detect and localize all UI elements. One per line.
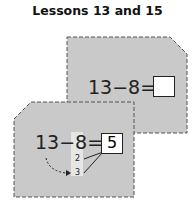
equation: 13−8= (35, 131, 103, 153)
minuend: 13 (35, 131, 59, 153)
flash-card-bottom: 13−8= 5 2 3 (13, 101, 135, 198)
subtrahend: 8 (75, 131, 87, 153)
page-title: Lessons 13 and 15 (0, 3, 195, 18)
minus-sign: − (59, 131, 75, 153)
answer-box (153, 76, 175, 97)
decomposition-part-2: 3 (75, 168, 80, 177)
equation: 13−8= (88, 76, 156, 98)
answer-box: 5 (101, 133, 123, 154)
minus-sign: − (112, 76, 128, 98)
subtrahend: 8 (128, 76, 140, 98)
decomposition-part-1: 2 (75, 154, 80, 163)
minuend: 13 (88, 76, 112, 98)
